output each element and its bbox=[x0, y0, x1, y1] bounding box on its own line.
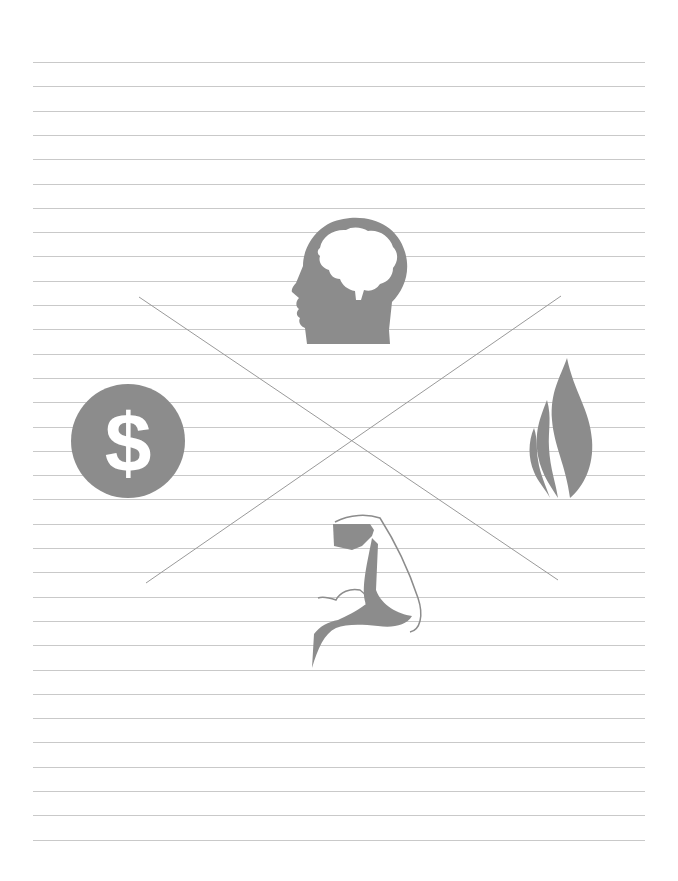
quadrant-diagram: $ bbox=[0, 0, 678, 881]
brain-head-icon bbox=[292, 218, 407, 344]
dollar-symbol: $ bbox=[105, 396, 152, 490]
dollar-coin-icon: $ bbox=[71, 384, 185, 498]
flexed-arm-icon bbox=[312, 515, 421, 668]
flame-icon bbox=[530, 358, 593, 498]
